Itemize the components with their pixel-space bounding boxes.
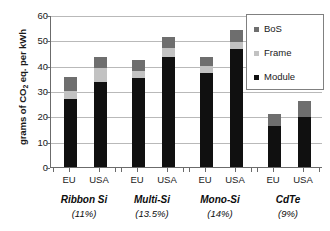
bar-segment-bos	[132, 60, 145, 71]
x-axis-label-usa: USA	[79, 175, 119, 185]
chart-legend: BoS Frame Module	[246, 14, 324, 90]
bar-segment-bos	[298, 101, 311, 117]
x-axis-tick-mark	[137, 168, 138, 172]
x-axis-label-usa: USA	[147, 175, 187, 185]
stacked-bar	[298, 101, 311, 167]
stacked-bar	[200, 57, 213, 167]
x-axis-tick-mark	[251, 168, 252, 172]
bar-segment-module	[268, 126, 281, 167]
bar-segment-bos	[268, 114, 281, 126]
y-axis-tick-label: 60	[24, 11, 48, 21]
x-axis-tick-mark	[235, 168, 236, 172]
x-axis-tick-mark	[319, 168, 320, 172]
bar-segment-bos	[94, 57, 107, 67]
bar-segment-bos	[200, 57, 213, 66]
y-axis-tick-label: 30	[24, 87, 48, 97]
legend-label-bos: BoS	[264, 24, 282, 34]
legend-item-module[interactable]: Module	[254, 71, 295, 83]
bar-segment-module	[64, 99, 77, 167]
y-axis-tick-mark	[46, 168, 50, 169]
x-axis-tick-mark	[205, 168, 206, 172]
group-efficiency-label: (9%)	[238, 208, 330, 219]
x-axis-tick-mark	[189, 168, 190, 172]
x-axis-tick-mark	[183, 168, 184, 172]
x-axis-tick-mark	[99, 168, 100, 172]
x-axis-tick-mark	[115, 168, 116, 172]
bar-segment-frame	[64, 91, 77, 99]
x-axis-tick-mark	[257, 168, 258, 172]
legend-swatch-module	[254, 75, 259, 80]
stacked-bar	[64, 77, 77, 167]
bar-segment-module	[230, 49, 243, 167]
bar-segment-bos	[230, 30, 243, 41]
gridline	[51, 92, 322, 93]
legend-item-frame[interactable]: Frame	[254, 47, 291, 59]
bar-segment-frame	[94, 68, 107, 82]
x-axis-label-usa: USA	[215, 175, 255, 185]
stacked-bar	[162, 37, 175, 167]
chart-figure: grams of CO2 eq. per kWh 0102030405060 E…	[0, 0, 330, 231]
group-label: CdTe	[238, 194, 330, 206]
bar-segment-module	[94, 82, 107, 167]
stacked-bar	[94, 57, 107, 167]
x-axis-tick-mark	[273, 168, 274, 172]
legend-item-bos[interactable]: BoS	[254, 23, 282, 35]
gridline	[51, 117, 322, 118]
legend-label-module: Module	[264, 72, 295, 82]
x-axis-label-usa: USA	[283, 175, 323, 185]
stacked-bar	[230, 30, 243, 167]
y-axis-title-container: grams of CO2 eq. per kWh	[0, 0, 20, 175]
bar-segment-module	[162, 57, 175, 167]
y-axis-tick-label: 40	[24, 62, 48, 72]
bar-segment-frame	[132, 71, 145, 79]
bar-segment-module	[298, 117, 311, 167]
legend-label-frame: Frame	[264, 48, 291, 58]
legend-swatch-frame	[254, 51, 259, 56]
y-axis-tick-label: 20	[24, 112, 48, 122]
x-axis-tick-mark	[53, 168, 54, 172]
stacked-bar	[132, 60, 145, 167]
bar-segment-bos	[64, 77, 77, 91]
bar-segment-bos	[162, 37, 175, 49]
bar-segment-module	[132, 78, 145, 167]
x-axis-tick-mark	[69, 168, 70, 172]
y-axis-tick-label: 50	[24, 36, 48, 46]
x-axis-tick-mark	[303, 168, 304, 172]
bar-segment-frame	[162, 48, 175, 57]
bar-segment-frame	[200, 66, 213, 73]
stacked-bar	[268, 114, 281, 167]
bar-segment-module	[200, 73, 213, 167]
x-axis-tick-mark	[121, 168, 122, 172]
legend-swatch-bos	[254, 27, 259, 32]
x-axis-tick-mark	[167, 168, 168, 172]
y-axis-tick-label: 0	[24, 163, 48, 173]
bar-segment-frame	[230, 42, 243, 50]
gridline	[51, 143, 322, 144]
y-axis-tick-label: 10	[24, 138, 48, 148]
